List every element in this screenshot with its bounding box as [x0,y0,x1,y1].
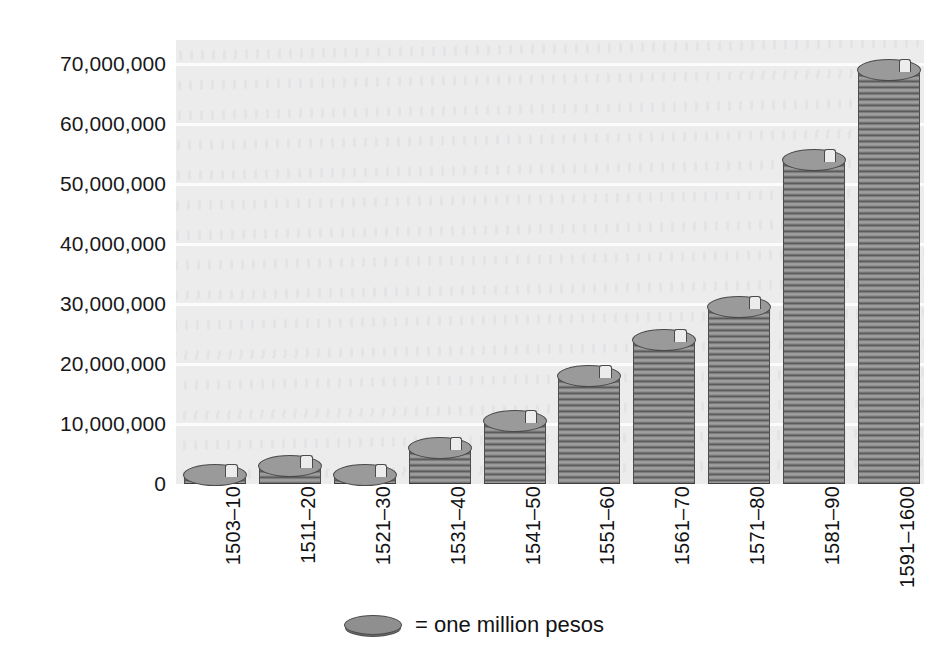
coin-stack [558,376,620,484]
coin-top-face [408,437,472,459]
coin-stack [633,340,695,484]
x-tick-label: 1521–30 [372,486,395,565]
x-tick-label: 1541–50 [522,486,545,565]
x-tick-label: 1551–60 [596,486,619,565]
y-tick-label: 20,000,000 [60,352,166,376]
bar [484,410,546,484]
coin-stack [708,307,770,484]
bar [783,149,845,484]
bar [708,296,770,484]
coin-top-face [632,329,696,351]
y-tick-label: 40,000,000 [60,232,166,256]
bar [409,437,471,484]
x-tick-label: 1531–40 [447,486,470,565]
treasure-imports-bar-chart: 010,000,00020,000,00030,000,00040,000,00… [0,0,948,662]
gridline [176,123,924,126]
coin-notch [824,149,836,162]
bar [858,59,920,484]
y-tick-label: 0 [154,472,166,496]
bar [259,455,321,484]
legend-label: = one million pesos [415,612,604,638]
coin-top-face [258,455,322,477]
y-tick-label: 70,000,000 [60,52,166,76]
x-tick-label: 1581–90 [821,486,844,565]
bar [558,365,620,484]
bar [334,464,396,484]
y-axis: 010,000,00020,000,00030,000,00040,000,00… [0,0,166,524]
x-tick-label: 1561–70 [671,486,694,565]
coin-notch [899,59,911,72]
coin-notch [525,410,537,423]
x-tick-label: 1503–10 [222,486,245,565]
bar [633,329,695,484]
plot-area [176,40,924,484]
y-tick-label: 30,000,000 [60,292,166,316]
coin-top-face [333,464,397,486]
x-tick-label: 1511–20 [297,486,320,564]
bar [184,464,246,484]
coin-notch [674,329,686,342]
y-tick-label: 50,000,000 [60,172,166,196]
coin-icon [344,615,402,635]
coin-top-face [183,464,247,486]
y-tick-label: 10,000,000 [60,412,166,436]
x-tick-label: 1591–1600 [896,486,919,588]
coin-stack [783,160,845,484]
coin-stack [858,70,920,484]
coin-top-face [782,149,846,171]
coin-top-face [707,296,771,318]
gridline [176,63,924,66]
legend: = one million pesos [0,612,948,638]
x-tick-label: 1571–80 [746,486,769,565]
coin-top-face [557,365,621,387]
coin-notch [300,455,312,468]
coin-notch [599,365,611,378]
coin-notch [450,437,462,450]
coin-top-face [857,59,921,81]
coin-notch [749,296,761,309]
coin-notch [375,464,387,477]
coin-top-face [483,410,547,432]
y-tick-label: 60,000,000 [60,112,166,136]
coin-notch [225,464,237,477]
